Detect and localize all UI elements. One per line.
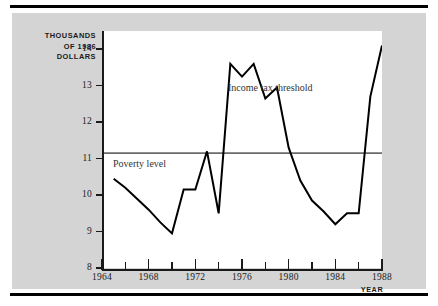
y-tick-label: 12 bbox=[50, 116, 92, 126]
y-tick-label: 14 bbox=[50, 43, 92, 53]
y-tick bbox=[96, 85, 103, 87]
series-canvas bbox=[102, 31, 382, 268]
x-tick-major bbox=[148, 259, 149, 270]
x-tick-label: 1988 bbox=[359, 272, 405, 282]
x-tick-minor bbox=[218, 262, 219, 270]
x-tick-label: 1972 bbox=[172, 272, 218, 282]
x-tick-minor bbox=[125, 262, 126, 270]
x-tick-label: 1968 bbox=[126, 272, 172, 282]
y-tick bbox=[96, 48, 103, 50]
x-tick-minor bbox=[358, 262, 359, 270]
y-tick-label: 13 bbox=[50, 80, 92, 90]
x-tick-minor bbox=[311, 262, 312, 270]
top-rule bbox=[10, 5, 428, 8]
x-tick-label: 1984 bbox=[312, 272, 358, 282]
y-tick bbox=[96, 231, 103, 233]
x-tick-major bbox=[241, 259, 242, 270]
y-tick-label: 10 bbox=[50, 189, 92, 199]
plot-area bbox=[102, 31, 382, 268]
x-tick-major bbox=[381, 259, 382, 270]
poverty-level-label: Poverty level bbox=[113, 158, 166, 169]
chart-figure: THOUSANDS OF 1986 DOLLARS 891011121314 1… bbox=[0, 0, 438, 306]
income-tax-threshold-label: Income tax threshold bbox=[228, 82, 312, 93]
x-tick-major bbox=[101, 259, 102, 270]
x-tick-major bbox=[195, 259, 196, 270]
x-tick-major bbox=[335, 259, 336, 270]
y-tick-label: 9 bbox=[50, 226, 92, 236]
x-tick-label: 1964 bbox=[79, 272, 125, 282]
x-tick-minor bbox=[171, 262, 172, 270]
y-tick-label: 8 bbox=[50, 262, 92, 272]
x-axis-title: YEAR bbox=[342, 285, 402, 294]
chart-panel: THOUSANDS OF 1986 DOLLARS 891011121314 1… bbox=[12, 13, 426, 289]
x-tick-minor bbox=[265, 262, 266, 270]
y-tick bbox=[96, 194, 103, 196]
y-tick bbox=[96, 121, 103, 123]
y-tick bbox=[96, 158, 103, 160]
y-axis-line bbox=[102, 31, 104, 270]
y-tick-label: 11 bbox=[50, 153, 92, 163]
x-tick-label: 1976 bbox=[219, 272, 265, 282]
income-tax-threshold-line bbox=[114, 46, 382, 234]
x-tick-major bbox=[288, 259, 289, 270]
x-tick-label: 1980 bbox=[266, 272, 312, 282]
